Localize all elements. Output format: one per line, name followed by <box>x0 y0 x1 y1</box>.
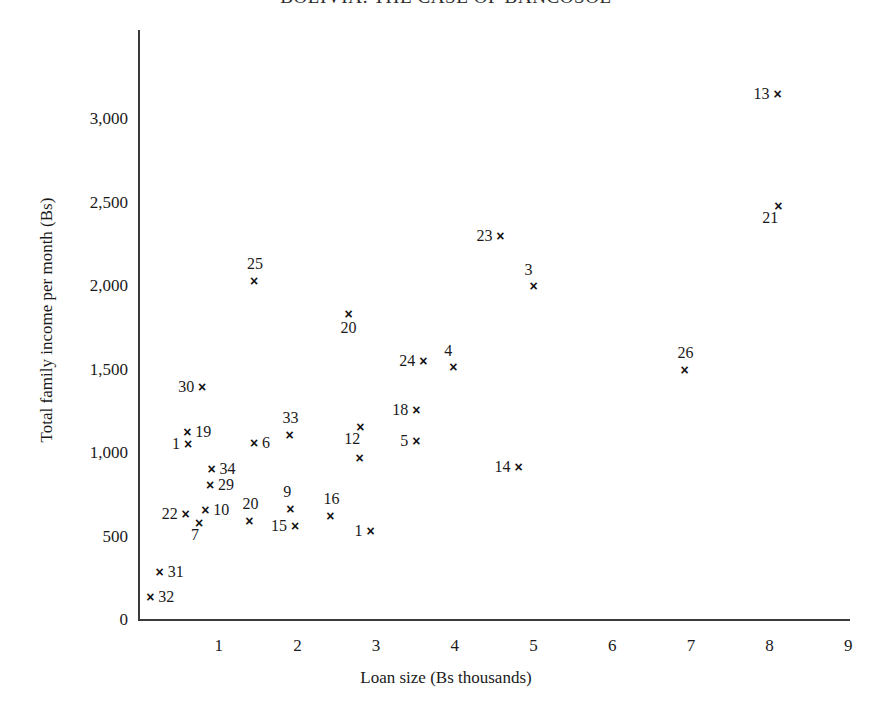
point-marker-x-icon: × <box>411 433 421 449</box>
x-tick-label: 1 <box>199 636 239 656</box>
y-tick-label: 3,000 <box>10 109 128 129</box>
point-marker-x-icon: × <box>183 436 193 452</box>
point-label: 25 <box>247 256 263 272</box>
y-axis-tick-labels: 05001,0001,5002,0002,5003,000 <box>0 0 128 725</box>
point-marker-x-icon: × <box>145 589 155 605</box>
point-marker-x-icon: × <box>418 353 428 369</box>
point-marker-x-icon: × <box>181 506 191 522</box>
y-tick-label: 1,000 <box>10 443 128 463</box>
point-label: 13 <box>753 86 769 102</box>
scatter-chart-figure: BOLIVIA: THE CASE OF BANCOSOL 05001,0001… <box>0 0 892 725</box>
point-label: 31 <box>168 564 184 580</box>
point-label: 19 <box>195 424 211 440</box>
point-label: 24 <box>399 353 415 369</box>
point-label: 26 <box>678 345 694 361</box>
point-marker-x-icon: × <box>249 435 259 451</box>
y-tick-label: 2,000 <box>10 276 128 296</box>
y-tick-label: 0 <box>10 610 128 630</box>
point-marker-x-icon: × <box>290 518 300 534</box>
point-label: 32 <box>158 589 174 605</box>
x-tick-label: 3 <box>356 636 396 656</box>
point-marker-x-icon: × <box>325 508 335 524</box>
y-tick-label: 500 <box>10 527 128 547</box>
x-tick-label: 8 <box>750 636 790 656</box>
point-label: 15 <box>271 518 287 534</box>
point-label: 22 <box>162 506 178 522</box>
point-marker-x-icon: × <box>205 477 215 493</box>
point-marker-x-icon: × <box>772 86 782 102</box>
plot-area: ×13×21×23×3×25×20×24×4×26×30×18×12×33×19… <box>138 30 850 620</box>
point-label: 9 <box>283 484 291 500</box>
x-tick-label: 4 <box>435 636 475 656</box>
point-marker-x-icon: × <box>366 523 376 539</box>
point-marker-x-icon: × <box>285 427 295 443</box>
point-label: 4 <box>444 343 452 359</box>
y-tick-label: 2,500 <box>10 193 128 213</box>
point-label: 30 <box>178 379 194 395</box>
point-label: 20 <box>242 496 258 512</box>
point-marker-x-icon: × <box>680 362 690 378</box>
point-marker-x-icon: × <box>495 228 505 244</box>
point-label: 5 <box>400 433 408 449</box>
x-tick-label: 5 <box>514 636 554 656</box>
point-label: 7 <box>191 527 199 543</box>
point-label: 18 <box>392 402 408 418</box>
point-label: 16 <box>323 491 339 507</box>
point-marker-x-icon: × <box>244 513 254 529</box>
point-marker-x-icon: × <box>529 278 539 294</box>
y-tick-label: 1,500 <box>10 360 128 380</box>
point-marker-x-icon: × <box>285 501 295 517</box>
x-tick-label: 7 <box>671 636 711 656</box>
x-tick-label: 9 <box>828 636 868 656</box>
point-label: 1 <box>172 436 180 452</box>
point-label: 29 <box>218 477 234 493</box>
point-label: 21 <box>762 210 778 226</box>
point-label: 3 <box>525 262 533 278</box>
x-tick-label: 6 <box>592 636 632 656</box>
x-axis-title: Loan size (Bs thousands) <box>0 668 892 688</box>
point-marker-x-icon: × <box>448 359 458 375</box>
point-marker-x-icon: × <box>411 402 421 418</box>
point-marker-x-icon: × <box>197 379 207 395</box>
point-label: 20 <box>341 320 357 336</box>
point-label: 6 <box>262 435 270 451</box>
point-marker-x-icon: × <box>207 461 217 477</box>
point-label: 33 <box>283 410 299 426</box>
point-marker-x-icon: × <box>355 450 365 466</box>
chart-title: BOLIVIA: THE CASE OF BANCOSOL <box>0 0 892 8</box>
point-label: 23 <box>476 228 492 244</box>
point-label: 14 <box>495 459 511 475</box>
point-marker-x-icon: × <box>155 564 165 580</box>
point-label: 34 <box>220 461 236 477</box>
point-marker-x-icon: × <box>514 459 524 475</box>
x-tick-label: 2 <box>277 636 317 656</box>
point-label: 10 <box>213 502 229 518</box>
point-label: 12 <box>344 431 360 447</box>
y-axis-title: Total family income per month (Bs) <box>37 60 57 580</box>
point-marker-x-icon: × <box>249 273 259 289</box>
point-label: 1 <box>355 523 363 539</box>
